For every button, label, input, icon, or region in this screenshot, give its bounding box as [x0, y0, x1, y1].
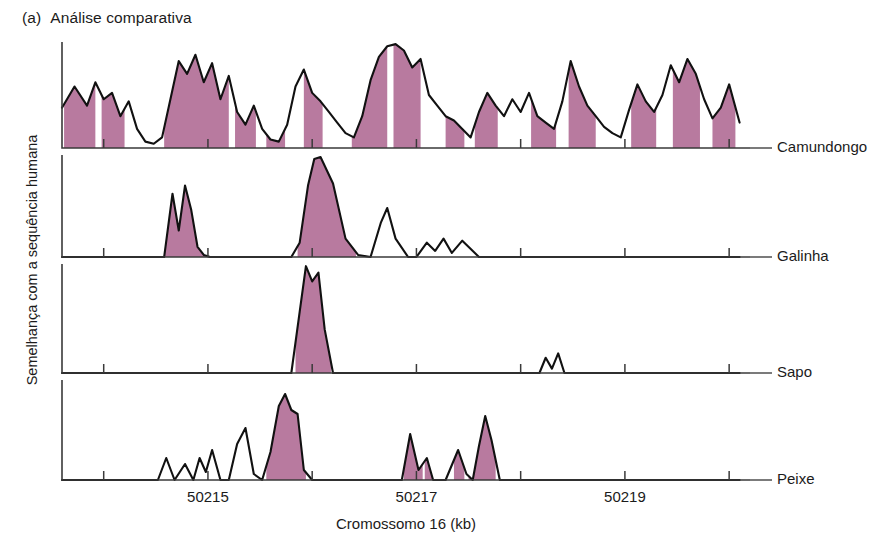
panel-camundongo	[62, 40, 772, 150]
panel-sapo	[62, 262, 772, 375]
x-tick-label: 50215	[187, 488, 229, 505]
conservation-trace	[62, 394, 740, 480]
plot-canvas	[0, 0, 876, 551]
conservation-trace	[62, 157, 740, 257]
species-label-sapo: Sapo	[777, 363, 812, 380]
conserved-region	[235, 40, 256, 150]
panel-galinha	[62, 153, 772, 259]
panel-peixe	[62, 378, 772, 482]
panel-axes	[62, 264, 750, 373]
comparative-genomics-figure: (a)Análise comparativa Semelhança com a …	[0, 0, 876, 551]
conserved-region	[352, 40, 387, 150]
conserved-region	[446, 40, 465, 150]
species-label-peixe: Peixe	[777, 470, 815, 487]
species-label-galinha: Galinha	[777, 247, 829, 264]
conserved-region	[673, 40, 700, 150]
conserved-region	[531, 40, 556, 150]
species-label-camundongo: Camundongo	[777, 138, 867, 155]
x-tick-label: 50217	[396, 488, 438, 505]
conservation-trace	[62, 266, 740, 373]
x-tick-label: 50219	[604, 488, 646, 505]
